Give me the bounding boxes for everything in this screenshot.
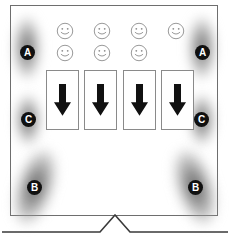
smiley-row-top (46, 20, 194, 41)
smiley-slot (83, 20, 120, 41)
smiley-slot-empty (157, 42, 194, 63)
smiley-face-icon (130, 22, 148, 40)
diagram-canvas: A A C C B B (0, 0, 230, 241)
arrow-box[interactable] (46, 70, 79, 130)
smiley-row-bottom (46, 42, 194, 63)
smiley-face-icon (93, 22, 111, 40)
down-arrow-icon (53, 82, 72, 118)
arrow-box[interactable] (123, 70, 156, 130)
down-arrow-icon (91, 82, 110, 118)
smiley-slot (46, 20, 83, 41)
smiley-slot (120, 20, 157, 41)
smiley-face-icon (130, 44, 148, 62)
baseline-with-peak (0, 214, 230, 241)
arrow-box-row (46, 70, 194, 130)
down-arrow-icon (130, 82, 149, 118)
smiley-grid (46, 20, 194, 64)
arrow-box[interactable] (161, 70, 194, 130)
smiley-slot (83, 42, 120, 63)
smiley-face-icon (56, 44, 74, 62)
smiley-slot (120, 42, 157, 63)
marker-b-right[interactable]: B (188, 180, 203, 195)
down-arrow-icon (168, 82, 187, 118)
marker-a-right[interactable]: A (195, 45, 210, 60)
marker-a-left[interactable]: A (20, 45, 35, 60)
marker-c-left[interactable]: C (21, 112, 36, 127)
marker-b-left[interactable]: B (27, 180, 42, 195)
smiley-face-icon (167, 22, 185, 40)
smiley-slot (157, 20, 194, 41)
arrow-box[interactable] (84, 70, 117, 130)
marker-c-right[interactable]: C (194, 112, 209, 127)
smiley-slot (46, 42, 83, 63)
smiley-face-icon (93, 44, 111, 62)
smiley-face-icon (56, 22, 74, 40)
